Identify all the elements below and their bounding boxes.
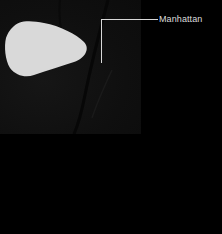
manhattan-label: Manhattan (159, 13, 202, 25)
highlighted-region-shape (0, 0, 100, 100)
callout-line-horizontal (101, 19, 158, 20)
callout-line-vertical (101, 19, 102, 63)
